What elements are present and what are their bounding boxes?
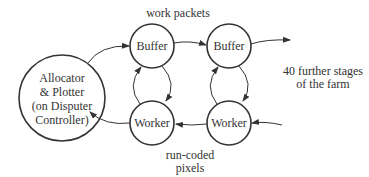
pixels-label: pixels <box>176 161 205 175</box>
further-stages-label: 40 further stages <box>283 64 363 78</box>
edge-in-to-worker2 <box>252 122 282 125</box>
run-coded-label: run-coded <box>166 148 215 162</box>
edge-buffer1-to-worker1 <box>162 66 171 101</box>
edge-worker1-to-allocator <box>90 112 130 124</box>
edge-buffer1-to-buffer2 <box>174 42 206 45</box>
worker-node-1: Worker <box>130 101 174 145</box>
edge-buffer2-to-worker2 <box>239 66 248 101</box>
allocator-line-2: & Plotter <box>40 85 84 99</box>
worker-node-2: Worker <box>207 101 251 145</box>
worker-2-label: Worker <box>211 116 247 130</box>
edge-worker1-to-buffer1 <box>133 67 141 104</box>
buffer-2-label: Buffer <box>213 39 244 53</box>
edge-worker2-to-buffer2 <box>210 67 218 104</box>
worker-1-label: Worker <box>134 116 170 130</box>
buffer-node-1: Buffer <box>130 24 174 68</box>
allocator-line-4: Controller) <box>35 113 88 127</box>
edge-worker2-to-worker1 <box>176 124 207 125</box>
edge-allocator-to-buffer1 <box>88 46 129 63</box>
of-the-farm-label: of the farm <box>296 77 350 91</box>
buffer-node-2: Buffer <box>207 24 251 68</box>
work-packets-label: work packets <box>146 6 210 20</box>
edge-buffer2-out <box>251 40 290 44</box>
allocator-line-1: Allocator <box>39 71 84 85</box>
buffer-1-label: Buffer <box>136 39 167 53</box>
allocator-node: Allocator & Plotter (on Disputer Control… <box>19 55 105 141</box>
allocator-line-3: (on Disputer <box>32 99 92 113</box>
farm-diagram: Allocator & Plotter (on Disputer Control… <box>0 0 369 177</box>
